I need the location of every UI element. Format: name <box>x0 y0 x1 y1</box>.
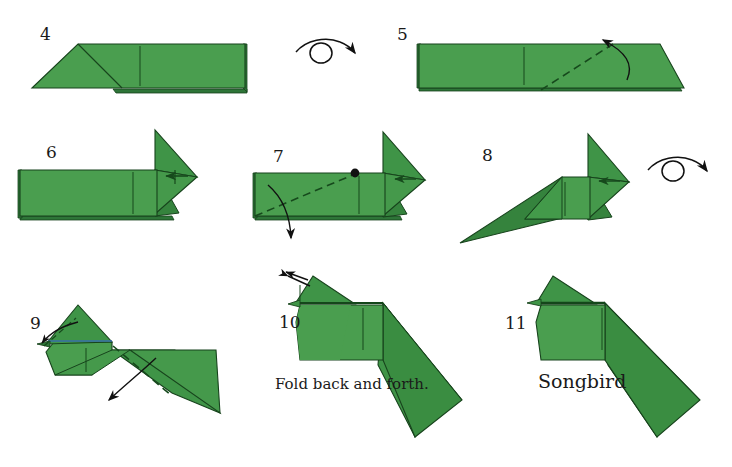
caption-songbird: Songbird <box>538 372 626 391</box>
step-6-head-upper <box>155 130 197 177</box>
origami-artwork <box>0 0 732 467</box>
step-number-7: 7 <box>273 148 284 165</box>
step-9-wing <box>130 350 220 413</box>
step-9-figure <box>37 305 220 413</box>
step-number-6: 6 <box>46 144 57 161</box>
origami-diagram-sheet: 4 5 6 7 8 9 10 11 Fold back and forth. S… <box>0 0 732 467</box>
step-11-paper-body <box>536 305 605 360</box>
turn-over-arrow-icon-step4 <box>296 39 355 63</box>
step-number-8: 8 <box>482 147 493 164</box>
step-5-paper-body <box>419 44 684 88</box>
step-10-wing <box>383 303 462 437</box>
step-7-head-upper <box>383 132 425 180</box>
step-number-5: 5 <box>397 26 408 43</box>
step-10-beak <box>288 300 300 307</box>
step-4-figure <box>32 44 247 93</box>
step-number-11: 11 <box>505 315 527 332</box>
step-5-figure <box>417 40 684 91</box>
step-10-head <box>295 276 355 304</box>
back-and-forth-arrow-icon-b <box>288 276 310 286</box>
step-11-head <box>536 276 596 304</box>
step-6-paper-body <box>20 170 157 216</box>
caption-fold-back-and-forth: Fold back and forth. <box>275 377 429 392</box>
step-4-shadow-edge <box>113 89 247 93</box>
step-number-4: 4 <box>40 26 51 43</box>
step-4-paper-body <box>32 44 245 88</box>
step-6-shadow-edge <box>20 216 174 220</box>
step-8-head-upper <box>588 134 629 182</box>
step-11-beak <box>527 299 541 306</box>
step-number-9: 9 <box>30 315 41 332</box>
step-6-figure <box>18 130 197 220</box>
reference-dot-icon <box>351 169 360 178</box>
step-number-10: 10 <box>279 314 301 331</box>
turn-over-arrow-icon-step8 <box>648 157 707 181</box>
step-7-paper-body <box>255 173 385 216</box>
step-11-figure <box>527 276 700 437</box>
step-10-figure <box>286 272 462 437</box>
step-9-head <box>46 305 112 344</box>
step-7-shadow-edge <box>255 216 402 220</box>
